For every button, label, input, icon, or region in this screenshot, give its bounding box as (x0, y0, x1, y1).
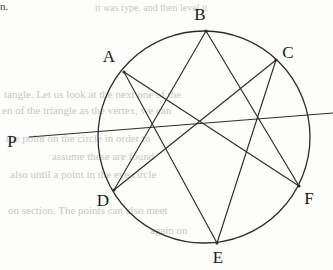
vertex-label-A: A (103, 47, 116, 66)
vertex-dot-B (204, 29, 207, 32)
chord-CD (114, 60, 276, 190)
chord-BD (114, 31, 206, 190)
chord-AE (124, 72, 217, 243)
vertex-dot-A (122, 70, 125, 73)
vertex-dot-group (112, 29, 300, 244)
vertex-label-C: C (282, 43, 293, 62)
vertex-dot-C (274, 58, 277, 61)
secant-line-P (29, 113, 333, 137)
vertex-label-D: D (97, 191, 109, 210)
vertex-label-F: F (304, 189, 313, 208)
vertex-label-B: B (194, 5, 205, 24)
chord-group (114, 31, 299, 243)
vertex-dot-D (112, 188, 115, 191)
figure-canvas: n. it was type. and then level it tangle… (0, 0, 333, 270)
chord-CE (217, 60, 276, 243)
vertex-dot-F (297, 184, 300, 187)
geometry-diagram: A B C D E F P (0, 0, 333, 270)
point-label-P: P (7, 132, 16, 151)
vertex-label-E: E (213, 248, 223, 267)
chord-AF (124, 72, 299, 186)
vertex-label-group: A B C D E F P (7, 5, 313, 267)
vertex-dot-E (215, 241, 218, 244)
main-circle (98, 31, 310, 243)
